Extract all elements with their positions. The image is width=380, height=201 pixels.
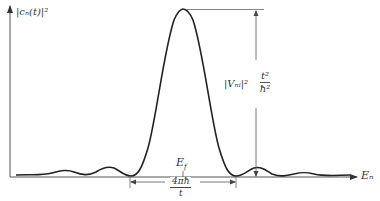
peak-height-numerator: t² <box>259 71 271 82</box>
center-energy-label: Ef <box>176 157 187 171</box>
center-energy-subscript: f <box>184 163 187 171</box>
center-energy-symbol: E <box>176 156 184 169</box>
sinc-squared-diagram <box>0 0 380 201</box>
peak-height-fraction: t² ħ² <box>259 71 271 94</box>
width-denominator: t <box>170 188 191 198</box>
probability-curve <box>16 9 350 176</box>
x-axis-label: Eₙ <box>361 170 374 181</box>
peak-height-denominator: ħ² <box>259 83 271 94</box>
width-fraction: 4πħ t <box>170 177 191 198</box>
peak-height-prefix: |Vₙᵢ|² <box>224 79 248 89</box>
y-axis-label: |cₙ(t)|² <box>16 7 48 17</box>
width-numerator: 4πħ <box>170 177 191 188</box>
